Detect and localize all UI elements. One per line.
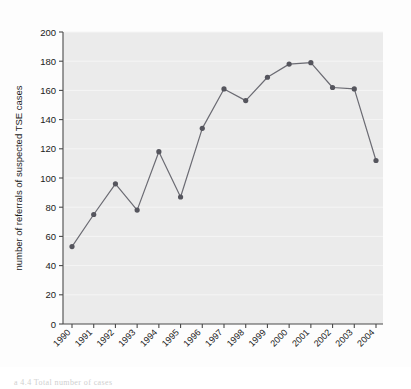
x-axis-tick-label: 2000 <box>268 327 289 348</box>
data-point <box>330 85 335 90</box>
data-point <box>243 98 248 103</box>
y-axis-tick-label: 60 <box>45 231 56 242</box>
data-point <box>178 194 183 199</box>
y-axis-tick-label: 40 <box>45 260 56 271</box>
x-axis-ticks: 1990199119921993199419951996199719981999… <box>51 324 376 349</box>
x-axis-tick-label: 1993 <box>116 327 137 348</box>
y-axis-tick-label: 20 <box>45 289 56 300</box>
data-point <box>308 60 313 65</box>
y-axis-tick-label: 140 <box>40 114 56 125</box>
y-axis-tick-label: 120 <box>40 143 56 154</box>
data-point <box>287 62 292 67</box>
data-point <box>69 244 74 249</box>
y-axis-tick-label: 0 <box>51 319 56 330</box>
y-axis-tick-label: 100 <box>40 173 56 184</box>
x-axis-tick-label: 1999 <box>247 327 268 348</box>
x-axis-tick-label: 1992 <box>95 327 116 348</box>
line-chart-svg: 020406080100120140160180200 199019911992… <box>0 0 411 389</box>
y-axis-ticks: 020406080100120140160180200 <box>40 27 63 330</box>
x-axis-tick-label: 1991 <box>73 327 94 348</box>
data-point <box>352 86 357 91</box>
data-point <box>113 181 118 186</box>
figure-container: 020406080100120140160180200 199019911992… <box>0 0 411 389</box>
x-axis-tick-label: 1996 <box>181 327 202 348</box>
y-axis-tick-label: 80 <box>45 202 56 213</box>
x-axis-tick-label: 1997 <box>203 327 224 348</box>
y-axis-tick-label: 180 <box>40 56 56 67</box>
y-axis-title: number of referrals of suspected TSE cas… <box>13 85 24 270</box>
data-point <box>156 149 161 154</box>
y-axis-tick-label: 160 <box>40 85 56 96</box>
chart-canvas: 020406080100120140160180200 199019911992… <box>0 0 411 389</box>
x-axis-tick-label: 1990 <box>51 327 72 348</box>
figure-caption: a 4.4 Total number of cases <box>14 378 113 387</box>
y-axis-tick-label: 200 <box>40 27 56 38</box>
caption-strip: a 4.4 Total number of cases <box>0 367 411 389</box>
data-point <box>265 75 270 80</box>
x-axis-tick-label: 2002 <box>312 327 333 348</box>
data-point <box>373 158 378 163</box>
data-point <box>221 86 226 91</box>
x-axis-tick-label: 2001 <box>290 327 311 348</box>
data-point <box>200 126 205 131</box>
x-axis-tick-label: 1995 <box>160 327 181 348</box>
data-point <box>135 208 140 213</box>
x-axis-tick-label: 2003 <box>333 327 354 348</box>
x-axis-tick-label: 1994 <box>138 327 159 348</box>
x-axis-tick-label: 1998 <box>225 327 246 348</box>
data-point <box>91 212 96 217</box>
x-axis-tick-label: 2004 <box>355 327 376 348</box>
